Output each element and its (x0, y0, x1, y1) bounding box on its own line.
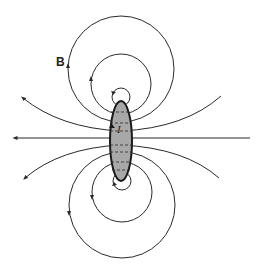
conductor (110, 101, 132, 181)
upper-left-field-line (23, 98, 121, 131)
arrow-icon (66, 63, 70, 68)
upper-right-field-line (121, 96, 221, 131)
lower-left-field-line (25, 145, 121, 178)
lower-right-field-line (121, 145, 219, 178)
magnetic-field-diagram: B I (0, 0, 263, 271)
arrow-icon (111, 91, 116, 95)
field-label: B (56, 55, 65, 69)
